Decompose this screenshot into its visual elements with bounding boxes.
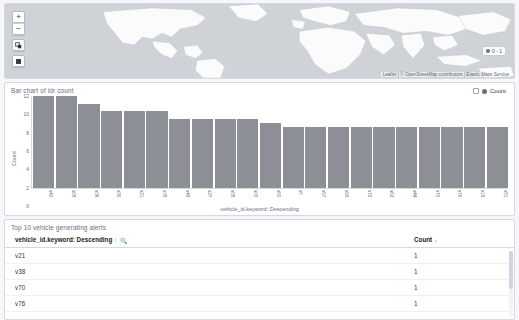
x-tick-label: v27	[191, 189, 212, 206]
bar[interactable]	[124, 111, 145, 188]
table-row[interactable]: v211	[5, 247, 514, 263]
table-scrollbar-thumb[interactable]	[509, 251, 513, 289]
cell-vehicle: v38	[5, 263, 404, 279]
bar[interactable]	[146, 111, 167, 188]
chart-panel-title: Bar chart of idr count	[5, 83, 80, 96]
bar[interactable]	[260, 123, 281, 188]
x-tick-label: v05	[100, 189, 121, 206]
cell-count: 1	[404, 295, 514, 311]
x-tick-label: v03	[237, 189, 258, 206]
column-header-count[interactable]: Count↕	[404, 233, 514, 247]
table-header-row: vehicle_id.keyword: Descending↕🔍 Count↕	[5, 233, 514, 247]
draw-rectangle-icon	[15, 58, 22, 65]
bar[interactable]	[441, 127, 462, 188]
chart-header: Bar chart of idr count Count	[5, 83, 514, 96]
cell-vehicle: v76	[5, 295, 404, 311]
map-attribution[interactable]: Leaflet | © OpenStreetMap contributors |…	[381, 72, 511, 77]
world-map-graphic	[5, 4, 514, 78]
bar[interactable]	[169, 119, 190, 188]
cell-vehicle: v70	[5, 279, 404, 295]
table-row[interactable]: v381	[5, 263, 514, 279]
legend-color-dot-icon	[482, 89, 487, 94]
x-tick-label: v40	[32, 189, 53, 206]
x-tick-label: v62	[373, 189, 394, 206]
bar[interactable]	[487, 127, 508, 188]
x-axis-title: vehicle_id.keyword: Descending	[5, 206, 514, 215]
bar[interactable]	[305, 127, 326, 188]
sort-icon[interactable]: ↕	[114, 237, 117, 243]
bar[interactable]	[237, 119, 258, 188]
x-tick-label: v50	[259, 189, 280, 206]
table-scrollbar[interactable]	[509, 251, 513, 317]
table-row[interactable]: v701	[5, 279, 514, 295]
map-controls: + −	[12, 11, 25, 67]
map-panel: + − 0 - 1	[4, 3, 515, 79]
y-tick-label: 2	[26, 185, 29, 191]
plot-wrapper: v40v68v09v05v21v38v48v27v08v03v50v5v57v9…	[31, 96, 508, 206]
table-row[interactable]: v761	[5, 295, 514, 311]
bar[interactable]	[56, 96, 77, 188]
bar[interactable]	[464, 127, 485, 188]
x-tick-label: v72	[350, 189, 371, 206]
table-scroll-area: vehicle_id.keyword: Descending↕🔍 Count↕ …	[5, 233, 514, 319]
x-axis-ticks: v40v68v09v05v21v38v48v27v08v03v50v5v57v9…	[31, 189, 508, 206]
table-panel: Top 10 vehicle generating alerts vehicle…	[4, 219, 515, 320]
chart-legend[interactable]: Count	[473, 83, 514, 94]
y-tick-label: 8	[26, 130, 29, 136]
x-tick-label: v90	[328, 189, 349, 206]
table-body: v211v381v701v761	[5, 247, 514, 311]
bar[interactable]	[215, 119, 236, 188]
column-header-vehicle-label: vehicle_id.keyword: Descending	[15, 236, 112, 243]
cell-count: 1	[404, 247, 514, 263]
dashboard-container: + − 0 - 1	[0, 0, 519, 320]
bar[interactable]	[396, 127, 417, 188]
y-axis-ticks: 121086420	[18, 96, 31, 206]
bar-plot-area[interactable]	[31, 96, 508, 189]
legend-series-label: Count	[490, 88, 506, 94]
bar[interactable]	[101, 111, 122, 188]
chart-body: Count 121086420 v40v68v09v05v21v38v48v27…	[5, 96, 514, 206]
map-legend: 0 - 1	[482, 46, 506, 56]
search-icon[interactable]: 🔍	[120, 237, 127, 244]
fit-bounds-icon	[15, 42, 22, 49]
bar[interactable]	[373, 127, 394, 188]
draw-rectangle-button[interactable]	[12, 55, 25, 67]
x-tick-label: v81	[487, 189, 508, 206]
x-tick-label: v08	[214, 189, 235, 206]
x-tick-label: v76	[441, 189, 462, 206]
column-header-count-label: Count	[414, 236, 432, 243]
y-tick-label: 12	[23, 93, 29, 99]
y-tick-label: 4	[26, 166, 29, 172]
y-axis-title: Count	[9, 96, 18, 206]
bar[interactable]	[192, 119, 213, 188]
y-tick-label: 0	[26, 203, 29, 209]
zoom-in-icon: +	[16, 13, 21, 21]
x-tick-label: v48	[168, 189, 189, 206]
bar[interactable]	[351, 127, 372, 188]
bar[interactable]	[283, 127, 304, 188]
cell-count: 1	[404, 279, 514, 295]
zoom-in-button[interactable]: +	[12, 11, 25, 23]
bar[interactable]	[78, 104, 99, 188]
cell-count: 1	[404, 263, 514, 279]
x-tick-label: v57	[305, 189, 326, 206]
sort-icon-count[interactable]: ↕	[434, 238, 437, 244]
x-tick-label: v44	[396, 189, 417, 206]
legend-filter-icon[interactable]	[473, 88, 479, 94]
map-legend-dot-icon	[486, 49, 490, 53]
x-tick-label: v19	[464, 189, 485, 206]
y-tick-label: 6	[26, 148, 29, 154]
zoom-out-button[interactable]: −	[12, 23, 25, 35]
fit-bounds-button[interactable]	[12, 39, 25, 51]
map-legend-label: 0 - 1	[492, 48, 502, 54]
x-tick-label: v5	[282, 189, 303, 206]
x-tick-label: v38	[146, 189, 167, 206]
bar[interactable]	[328, 127, 349, 188]
column-header-vehicle[interactable]: vehicle_id.keyword: Descending↕🔍	[5, 233, 404, 247]
cell-vehicle: v21	[5, 247, 404, 263]
bar[interactable]	[33, 96, 54, 188]
bar[interactable]	[419, 127, 440, 188]
alerts-table: vehicle_id.keyword: Descending↕🔍 Count↕ …	[5, 233, 514, 312]
map-canvas[interactable]: + − 0 - 1	[5, 4, 514, 78]
bar-chart-panel: Bar chart of idr count Count Count 12108…	[4, 82, 515, 216]
